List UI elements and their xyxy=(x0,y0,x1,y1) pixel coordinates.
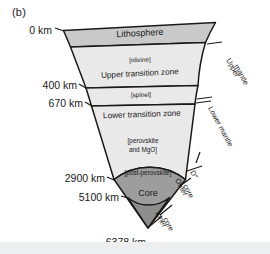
depth-label-670km: 670 km xyxy=(49,97,84,109)
leader-0km xyxy=(55,28,64,31)
tick-upper-mantle-bottom xyxy=(196,101,211,103)
tick-lower-mantle-top xyxy=(197,97,212,99)
bottom-band xyxy=(0,242,270,254)
depth-label-0km: 0 km xyxy=(29,24,52,36)
earth-interior-diagram: 0 km 400 km 670 km 2900 km 5100 km 6378 … xyxy=(0,0,270,254)
layer-upper-mantle xyxy=(71,43,206,89)
depth-label-2900km: 2900 km xyxy=(65,172,106,184)
mineral-label-perovskite-line1: [perovskite xyxy=(128,137,159,145)
figure-canvas: (b) 0 km 400 km 670 km 29 xyxy=(0,0,270,254)
side-label-lower-mantle: Lower mantle xyxy=(206,105,235,148)
mineral-label-post-perovskite: [post-perovskite] xyxy=(125,169,172,177)
mineral-label-perovskite-line2: and MgO] xyxy=(129,146,157,154)
tick-dprime xyxy=(196,152,200,163)
depth-label-5100km: 5100 km xyxy=(79,191,120,203)
tick-upper-mantle-top xyxy=(207,42,222,44)
depth-label-400km: 400 km xyxy=(43,79,78,91)
layer-label-core: Core xyxy=(138,188,158,198)
